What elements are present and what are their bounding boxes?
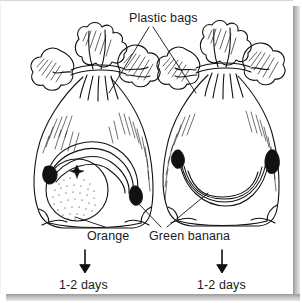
right-bag-illustration bbox=[157, 21, 285, 227]
figure-card: Plastic bags Orange Green banana 1-2 day… bbox=[0, 0, 293, 294]
left-bag-banana bbox=[43, 142, 143, 205]
right-bag-knot bbox=[157, 21, 285, 90]
arrow-down-right bbox=[217, 250, 227, 273]
left-bag-orange bbox=[46, 159, 108, 221]
label-duration-right: 1-2 days bbox=[197, 278, 246, 292]
label-green-banana: Green banana bbox=[149, 229, 230, 243]
right-bag-banana bbox=[171, 150, 279, 206]
arrow-down-left bbox=[80, 250, 90, 273]
figure-container: Plastic bags Orange Green banana 1-2 day… bbox=[0, 0, 302, 303]
right-bag-body bbox=[163, 73, 279, 226]
label-duration-left: 1-2 days bbox=[59, 278, 108, 292]
card-shadow-bottom bbox=[6, 294, 300, 301]
left-bag-knot bbox=[31, 23, 160, 91]
card-shadow-right bbox=[293, 6, 300, 300]
leader-line-green-banana-left bbox=[138, 203, 161, 227]
plastic-bag-diagram bbox=[1, 1, 294, 295]
label-orange: Orange bbox=[87, 229, 129, 243]
left-bag-illustration bbox=[31, 23, 160, 229]
label-plastic-bags: Plastic bags bbox=[129, 11, 198, 25]
